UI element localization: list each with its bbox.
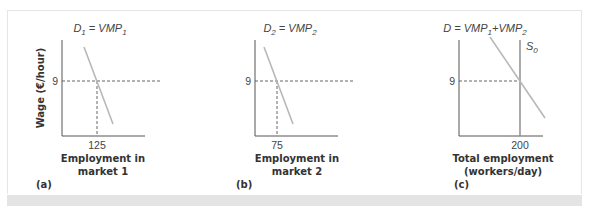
panel-a-x-label-line2: market 1 (78, 166, 129, 177)
panel-b-y-tick: 9 (245, 75, 251, 87)
panel-c-x-label-line2: (workers/day) (464, 166, 542, 177)
panel-a-y-tick: 9 (52, 75, 58, 87)
panel-a-demand-curve (84, 47, 113, 124)
panel-b: D2 = VMP2 9 75 Employment in market 2 (b… (236, 22, 355, 190)
y-axis-label: Wage (€/hour) (35, 48, 46, 129)
panel-a: D1 = VMP1 9 125 Employment in market 1 (… (36, 22, 162, 190)
panel-b-x-label-line1: Employment in (255, 153, 339, 164)
panel-a-title: D1 = VMP1 (73, 22, 126, 37)
panel-b-x-label-line2: market 2 (272, 166, 323, 177)
panel-c-x-tick: 200 (511, 139, 529, 151)
panel-b-demand-curve (264, 47, 293, 124)
panel-c-label: (c) (454, 179, 469, 190)
panel-c-x-label-line1: Total employment (452, 153, 553, 164)
panel-c: D = VMP1+VMP2 S0 9 200 Total employment … (443, 22, 554, 190)
panel-b-x-tick: 75 (271, 139, 283, 151)
panel-a-label: (a) (36, 179, 52, 190)
panel-c-title: D = VMP1+VMP2 (443, 22, 527, 37)
panel-b-title: D2 = VMP2 (263, 22, 317, 37)
panel-c-y-tick: 9 (449, 75, 455, 87)
panel-c-supply-label: S0 (526, 40, 538, 55)
panel-a-x-tick: 125 (88, 139, 106, 151)
panel-a-x-label-line1: Employment in (61, 153, 145, 164)
labor-market-figure: Wage (€/hour) D1 = VMP1 9 125 Employment… (0, 0, 589, 206)
panel-b-label: (b) (236, 179, 252, 190)
panel-a-axes (62, 40, 145, 136)
